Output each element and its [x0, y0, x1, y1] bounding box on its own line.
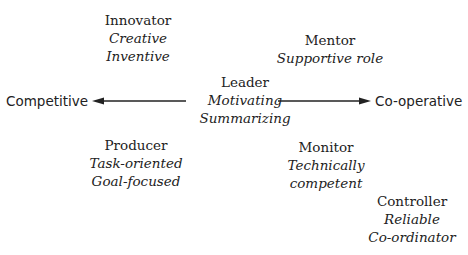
right-arrow [278, 98, 371, 105]
role-trait: Creative [105, 29, 172, 47]
role-trait: Goal-focused [89, 172, 182, 190]
role-mentor: Mentor Supportive role [277, 31, 383, 67]
role-trait: Summarizing [199, 109, 290, 127]
role-trait: Reliable [368, 210, 455, 228]
role-title: Mentor [277, 31, 383, 49]
role-trait: Supportive role [277, 49, 383, 67]
role-monitor: Monitor Technically competent [287, 138, 364, 192]
role-leader: Leader Motivating Summarizing [199, 73, 290, 127]
role-trait: Motivating [199, 91, 290, 109]
role-trait: competent [287, 174, 364, 192]
role-title: Producer [89, 136, 182, 154]
left-arrow [92, 98, 186, 105]
role-trait: Task-oriented [89, 154, 182, 172]
role-trait: Inventive [105, 47, 172, 65]
role-title: Monitor [287, 138, 364, 156]
role-trait: Technically [287, 156, 364, 174]
role-title: Controller [368, 192, 455, 210]
role-producer: Producer Task-oriented Goal-focused [89, 136, 182, 190]
axis-label-competitive: Competitive [6, 92, 88, 110]
role-controller: Controller Reliable Co-ordinator [368, 192, 455, 246]
role-title: Innovator [105, 11, 172, 29]
axis-label-cooperative: Co-operative [375, 92, 462, 110]
role-title: Leader [199, 73, 290, 91]
role-trait: Co-ordinator [368, 228, 455, 246]
role-innovator: Innovator Creative Inventive [105, 11, 172, 65]
